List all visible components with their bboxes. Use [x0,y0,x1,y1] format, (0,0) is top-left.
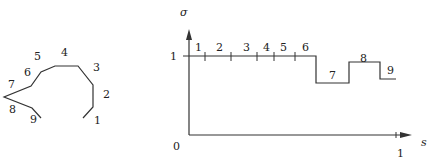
segment-label-6: 6 [302,41,309,54]
curve-label-1: 1 [94,114,101,127]
x-axis-arrow-icon [400,132,412,138]
segment-label-8: 8 [360,52,367,65]
origin-label: 0 [173,140,180,153]
segment-label-5: 5 [280,41,287,54]
segment-label-9: 9 [387,64,394,77]
diagram-canvas: 1 2 3 4 5 6 7 8 9 σ s 0 1 1 1 [0,0,430,159]
step-chart: σ s 0 1 1 1 2 3 4 5 6 7 8 9 [170,6,427,159]
segment-label-7: 7 [329,69,336,82]
polygon-curve [4,66,93,118]
curve-label-6: 6 [24,66,31,79]
segment-label-1: 1 [195,41,202,54]
curve-label-9: 9 [30,113,37,126]
curve-label-3: 3 [93,61,100,74]
curve-label-2: 2 [103,88,110,101]
x-axis-label: s [421,136,427,149]
curve-label-7: 7 [8,78,15,91]
curve-label-4: 4 [61,46,68,59]
curve-segment-labels: 1 2 3 4 5 6 7 8 9 [8,46,110,127]
curve-label-8: 8 [9,103,16,116]
segment-label-2: 2 [216,41,223,54]
y-tick-label: 1 [170,50,177,63]
y-axis-label: σ [180,6,188,19]
y-axis-arrow-icon [186,29,192,40]
curve-label-5: 5 [34,50,41,63]
segment-label-4: 4 [263,41,270,54]
segment-label-3: 3 [243,41,250,54]
x-tick-label: 1 [397,147,404,159]
